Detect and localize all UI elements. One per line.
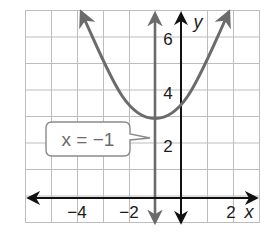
callout-annotation: x = −1 [46, 122, 150, 156]
x-tick-label: −4 [67, 203, 86, 222]
y-axis-label: y [192, 12, 204, 32]
y-tick-label: 4 [163, 84, 172, 103]
x-tick-label: −2 [119, 203, 138, 222]
coordinate-plane: −4 −2 2 x 6 4 2 y x = −1 [0, 0, 272, 248]
x-tick-label: 2 [226, 203, 235, 222]
y-tick-label: 6 [163, 30, 172, 49]
x-axis-label: x [244, 202, 255, 222]
callout-text: x = −1 [62, 129, 115, 150]
y-tick-label: 2 [163, 137, 172, 156]
